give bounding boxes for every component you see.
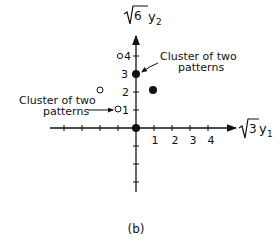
x-tick-label: 1: [152, 134, 159, 147]
open-point-4: [117, 53, 122, 58]
svg-text:y: y: [148, 9, 156, 24]
y-axis-label: 6 y 2: [124, 6, 162, 27]
scatter-diagram: 1 2 3 4 1 2 3 4 Cluster of two patterns …: [0, 0, 280, 242]
svg-text:2: 2: [156, 17, 162, 27]
x-tick-label: 3: [190, 134, 197, 147]
filled-point-origin: [132, 124, 140, 132]
y-tick-label: 3: [121, 68, 128, 81]
annotation-top-line2: patterns: [178, 61, 224, 74]
svg-text:1: 1: [267, 129, 273, 139]
open-point-neg1-1: [115, 106, 121, 112]
svg-text:3: 3: [249, 122, 257, 136]
y-tick-label: 2: [122, 86, 129, 99]
svg-text:y: y: [259, 121, 267, 136]
x-axis-label: 3 y 1: [239, 119, 273, 139]
annotation-top-arrow: [142, 63, 158, 72]
y-tick-label: 4: [124, 50, 131, 63]
svg-text:6: 6: [134, 9, 142, 23]
filled-point-0-3: [132, 70, 140, 78]
annotation-left-line2: patterns: [43, 105, 89, 118]
x-tick-label: 4: [208, 134, 215, 147]
filled-point-1-2: [149, 86, 157, 94]
y-tick-label: 1: [122, 104, 129, 117]
x-tick-label: 2: [172, 134, 179, 147]
open-point-neg2-2: [97, 87, 103, 93]
figure-caption: (b): [128, 222, 145, 236]
